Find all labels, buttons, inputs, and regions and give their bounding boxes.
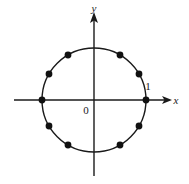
circle-point: [143, 97, 150, 104]
circle-point: [136, 71, 143, 78]
circle-point: [46, 71, 53, 78]
unit-tick-label: 1: [145, 80, 151, 92]
circle-point: [65, 142, 72, 149]
y-axis-label: y: [91, 2, 97, 14]
figure-canvas: x y 0 1: [0, 0, 189, 184]
circle-point: [46, 123, 53, 130]
circle-point: [117, 142, 124, 149]
origin-label: 0: [83, 104, 89, 116]
circle-point: [136, 123, 143, 130]
x-axis-label: x: [173, 94, 179, 106]
circle-point: [39, 97, 46, 104]
circle-point: [117, 52, 124, 59]
unit-circle-figure: x y 0 1: [0, 0, 189, 184]
circle-point: [65, 52, 72, 59]
